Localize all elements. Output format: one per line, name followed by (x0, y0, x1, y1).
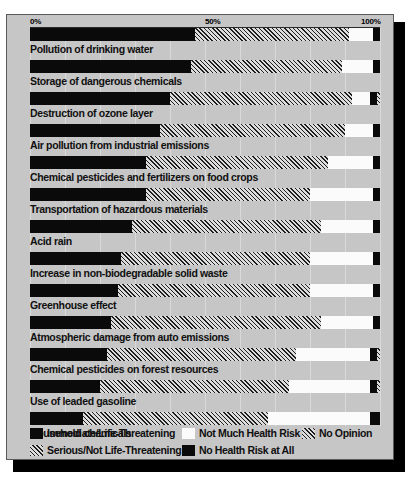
bar-label: Air pollution from industrial emissions (30, 138, 209, 152)
bar-segment-immediate (30, 220, 132, 233)
chart-row: Atmospheric damage from auto emissions (7, 316, 394, 348)
bar-segment-immediate (30, 188, 146, 201)
legend-label-norisk: No Health Risk at All (199, 444, 294, 456)
bar-segment-notmuch (321, 220, 374, 233)
bar-segment-immediate (30, 348, 107, 361)
bar-segment-notmuch (328, 156, 374, 169)
bar-segment-norisk (373, 156, 380, 169)
bar-segment-serious (146, 156, 328, 169)
chart-row: Acid rain (7, 220, 394, 252)
bar-segment-serious (83, 412, 269, 425)
bar-segment-immediate (30, 92, 170, 105)
bar-segment-norisk (373, 28, 380, 41)
bar-segment-serious (132, 220, 321, 233)
bar-segment-norisk (370, 380, 377, 393)
stacked-bar (30, 252, 380, 265)
bar-segment-serious (160, 124, 346, 137)
stacked-bar (30, 316, 380, 329)
bar-segment-notmuch (289, 380, 370, 393)
bar-segment-norisk (373, 284, 380, 297)
bar-segment-serious (146, 188, 311, 201)
plot-area: Pollution of drinking waterStorage of da… (7, 28, 394, 426)
stacked-bar (30, 156, 380, 169)
bar-segment-notmuch (352, 92, 370, 105)
legend-item-norisk: No Health Risk at All (182, 444, 294, 456)
chart-row: Chemical pesticides and fertilizers on f… (7, 156, 394, 188)
stacked-bar (30, 412, 380, 425)
bar-segment-norisk (373, 188, 380, 201)
stacked-bar (30, 348, 380, 361)
bar-segment-serious (191, 60, 342, 73)
chart-row: Storage of dangerous chemicals (7, 60, 394, 92)
bar-segment-noopinion (377, 348, 381, 361)
chart-title: RISKS TO PUBLIC HEALTH AND THE ENVIRONME… (71, 0, 337, 2)
legend-label-immediate: Immediate/Life-Threatening (47, 427, 175, 439)
chart-row: Increase in non-biodegradable solid wast… (7, 252, 394, 284)
stacked-bar (30, 220, 380, 233)
legend-swatch-norisk (182, 445, 195, 456)
bar-segment-notmuch (310, 188, 373, 201)
chart-row: Air pollution from industrial emissions (7, 124, 394, 156)
bar-segment-notmuch (342, 60, 374, 73)
chart-title-strip: RISKS TO PUBLIC HEALTH AND THE ENVIRONME… (0, 0, 407, 13)
legend-label-notmuch: Not Much Health Risk (199, 427, 300, 439)
stacked-bar (30, 124, 380, 137)
bar-label: Chemical pesticides on forest resources (30, 362, 218, 376)
bar-segment-immediate (30, 284, 118, 297)
legend-label-noopinion: No Opinion (319, 427, 372, 439)
legend-item-serious: Serious/Not Life-Threatening (30, 444, 181, 456)
bar-segment-norisk (370, 348, 377, 361)
axis-tick-0: 0% (30, 17, 41, 26)
bar-segment-noopinion (377, 380, 381, 393)
bar-segment-norisk (373, 220, 380, 233)
bar-segment-noopinion (377, 92, 381, 105)
bar-segment-norisk (373, 124, 380, 137)
bar-segment-notmuch (349, 28, 374, 41)
legend-swatch-notmuch (182, 428, 195, 439)
bar-segment-notmuch (296, 348, 370, 361)
bar-label: Acid rain (30, 234, 72, 248)
bar-segment-immediate (30, 60, 191, 73)
bar-segment-serious (121, 252, 310, 265)
chart-row: Use of leaded gasoline (7, 380, 394, 412)
bar-segment-serious (195, 28, 349, 41)
chart-row: Pollution of drinking water (7, 28, 394, 60)
axis-tick-50: 50% (205, 17, 220, 26)
chart-row: Transportation of hazardous materials (7, 188, 394, 220)
bar-label: Transportation of hazardous materials (30, 202, 208, 216)
stacked-bar (30, 284, 380, 297)
bar-segment-notmuch (321, 316, 374, 329)
chart-row: Greenhouse effect (7, 284, 394, 316)
bar-label: Greenhouse effect (30, 298, 116, 312)
stacked-bar (30, 92, 380, 105)
stacked-bar (30, 60, 380, 73)
bar-segment-notmuch (310, 252, 373, 265)
bar-segment-norisk (370, 412, 381, 425)
bar-segment-serious (107, 348, 296, 361)
legend-swatch-serious (30, 445, 43, 456)
bar-segment-norisk (373, 316, 380, 329)
bar-label: Chemical pesticides and fertilizers on f… (30, 170, 258, 184)
axis-tick-100: 100% (361, 17, 381, 26)
bar-segment-notmuch (310, 284, 373, 297)
bar-label: Increase in non-biodegradable solid wast… (30, 266, 227, 280)
legend-item-immediate: Immediate/Life-Threatening (30, 427, 175, 439)
stacked-bar (30, 380, 380, 393)
bar-label: Storage of dangerous chemicals (30, 74, 182, 88)
bar-segment-norisk (373, 60, 380, 73)
legend-item-notmuch: Not Much Health Risk (182, 427, 300, 439)
legend-swatch-immediate (30, 428, 43, 439)
bar-segment-serious (100, 380, 289, 393)
bar-segment-serious (170, 92, 352, 105)
bar-segment-immediate (30, 156, 146, 169)
bar-label: Pollution of drinking water (30, 42, 153, 56)
bar-segment-serious (111, 316, 321, 329)
legend-swatch-noopinion (302, 428, 315, 439)
chart-panel: 0%50%100% Pollution of drinking waterSto… (6, 14, 394, 460)
bar-label: Use of leaded gasoline (30, 394, 136, 408)
bar-segment-immediate (30, 252, 121, 265)
bar-label: Destruction of ozone layer (30, 106, 153, 120)
bar-segment-serious (118, 284, 311, 297)
legend-label-serious: Serious/Not Life-Threatening (47, 444, 181, 456)
bar-segment-immediate (30, 412, 83, 425)
